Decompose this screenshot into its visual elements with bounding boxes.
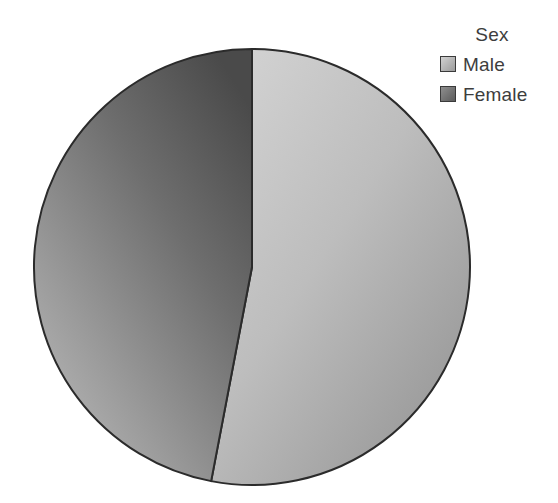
pie-chart-figure: Sex Male Female: [0, 0, 558, 503]
legend-swatch-male: [440, 56, 456, 72]
pie-slice-female[interactable]: [34, 49, 252, 481]
legend-swatch-female: [440, 86, 456, 102]
legend-label-female: Female: [463, 85, 528, 104]
legend-item-female[interactable]: Female: [440, 83, 558, 105]
legend-label-male: Male: [463, 55, 505, 74]
legend-title: Sex: [440, 24, 558, 46]
legend: Sex Male Female: [440, 24, 558, 113]
legend-item-male[interactable]: Male: [440, 53, 558, 75]
